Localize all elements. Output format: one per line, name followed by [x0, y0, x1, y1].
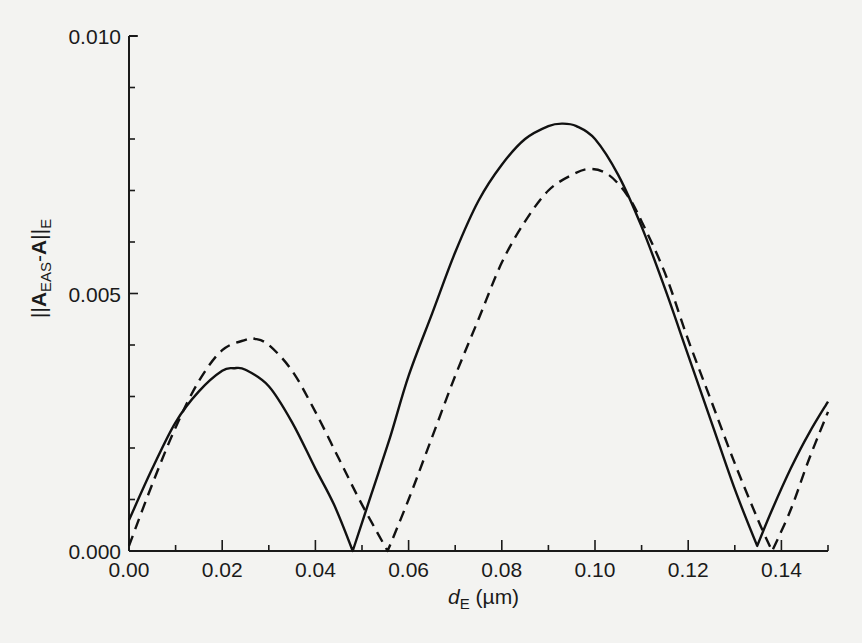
y-tick-label: 0.005	[68, 283, 121, 306]
axes	[129, 36, 828, 551]
x-tick-label: 0.14	[761, 558, 802, 581]
x-axis-title: dE (µm)	[448, 585, 519, 612]
x-tick-label: 0.06	[388, 558, 429, 581]
x-tick-label: 0.04	[295, 558, 336, 581]
y-tick-label: 0.000	[68, 540, 121, 563]
dashed-series-line	[129, 169, 828, 551]
series-layer	[129, 124, 828, 551]
ticks	[129, 36, 828, 551]
x-tick-label: 0.02	[202, 558, 243, 581]
line-chart: 0.000.020.040.060.080.100.120.140.0000.0…	[0, 0, 862, 643]
y-tick-label: 0.010	[68, 25, 121, 48]
x-tick-label: 0.08	[481, 558, 522, 581]
y-axis-title: ||AEAS-A||E	[27, 219, 54, 318]
solid-series-line	[129, 124, 828, 551]
x-tick-label: 0.12	[668, 558, 709, 581]
x-tick-label: 0.10	[575, 558, 616, 581]
